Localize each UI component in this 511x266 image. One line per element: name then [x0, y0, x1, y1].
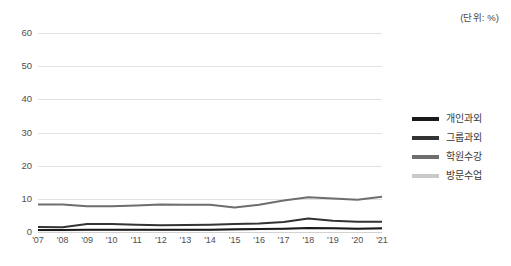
legend-label: 방문수업: [446, 171, 482, 181]
y-tick-label-10: 10: [6, 194, 32, 204]
unit-note: (단위: %): [460, 10, 499, 24]
y-tick-label-0: 0: [6, 227, 32, 237]
plot-area: [38, 33, 382, 232]
x-axis: '07'08'09'10'11'12'13'14'15'16'17'18'19'…: [38, 236, 382, 254]
legend-label: 개인과외: [446, 114, 482, 124]
legend-item-그룹과외[interactable]: 그룹과외: [412, 129, 508, 147]
y-tick-label-40: 40: [6, 95, 32, 105]
legend: 개인과외그룹과외학원수강방문수업: [412, 110, 508, 186]
x-tick-label-09: '09: [81, 236, 93, 245]
legend-label: 그룹과외: [446, 133, 482, 143]
x-tick-label-13: '13: [180, 236, 192, 245]
x-tick-label-11: '11: [131, 236, 142, 245]
x-tick-label-15: '15: [229, 236, 241, 245]
x-tick-label-14: '14: [204, 236, 216, 245]
x-tick-label-10: '10: [106, 236, 118, 245]
y-tick-label-60: 60: [6, 28, 32, 38]
y-tick-label-30: 30: [6, 128, 32, 138]
series-line-개인과외: [38, 228, 382, 230]
y-tick-label-20: 20: [6, 161, 32, 171]
x-tick-label-16: '16: [253, 236, 265, 245]
legend-swatch-icon: [412, 136, 439, 140]
x-tick-label-08: '08: [57, 236, 69, 245]
chart-container: (단위: %) 0102030405060 '07'08'09'10'11'12…: [0, 0, 511, 266]
x-tick-label-18: '18: [302, 236, 314, 245]
y-tick-label-50: 50: [6, 61, 32, 71]
series-layer: [38, 33, 382, 232]
x-tick-label-21: '21: [376, 236, 388, 245]
x-tick-label-20: '20: [352, 236, 364, 245]
legend-item-개인과외[interactable]: 개인과외: [412, 110, 508, 128]
series-line-학원수강: [38, 197, 382, 208]
legend-swatch-icon: [412, 117, 439, 121]
legend-label: 학원수강: [446, 152, 482, 162]
legend-swatch-icon: [412, 155, 439, 159]
gridline-0: [38, 232, 382, 233]
x-tick-label-07: '07: [32, 236, 44, 245]
legend-item-방문수업[interactable]: 방문수업: [412, 167, 508, 185]
legend-swatch-icon: [412, 174, 439, 178]
x-tick-label-12: '12: [155, 236, 167, 245]
x-tick-label-17: '17: [278, 236, 290, 245]
x-tick-label-19: '19: [327, 236, 339, 245]
series-line-그룹과외: [38, 218, 382, 227]
y-axis: 0102030405060: [4, 33, 32, 232]
legend-item-학원수강[interactable]: 학원수강: [412, 148, 508, 166]
